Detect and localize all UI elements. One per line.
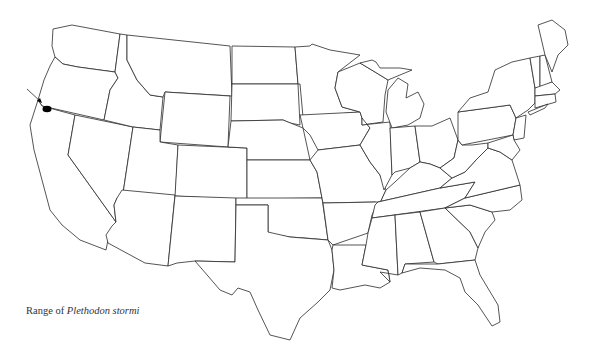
state-colorado xyxy=(175,145,247,200)
state-wyoming xyxy=(160,92,230,147)
caption-species: Plethodon stormi xyxy=(67,305,140,316)
state-new-mexico xyxy=(168,196,236,266)
state-iowa xyxy=(300,112,370,150)
state-michigan-lower xyxy=(386,78,424,128)
range-marker xyxy=(43,106,52,112)
state-florida xyxy=(402,260,500,326)
map-caption: Range of Plethodon stormi xyxy=(26,305,139,316)
range-map: Range of Plethodon stormi xyxy=(0,0,591,358)
state-arizona xyxy=(106,190,175,266)
state-south-dakota xyxy=(231,84,300,125)
state-north-dakota xyxy=(232,46,298,84)
caption-prefix: Range of xyxy=(26,305,64,316)
state-kansas xyxy=(247,160,322,199)
